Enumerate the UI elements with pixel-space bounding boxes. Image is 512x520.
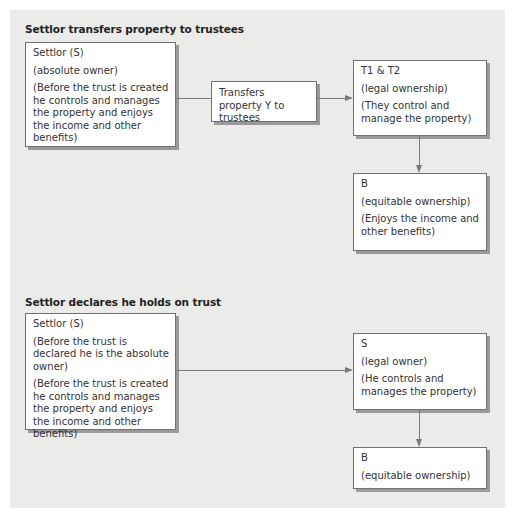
legal-owner-name: S xyxy=(361,338,480,351)
section2-legal-owner-box: S (legal owner) (He controls and manages… xyxy=(353,333,487,410)
trustees-role: (legal ownership) xyxy=(361,83,480,96)
beneficiary-role: (equitable ownership) xyxy=(361,196,480,209)
beneficiary-role: (equitable ownership) xyxy=(361,470,480,483)
connector-settlor-to-legal-owner xyxy=(176,370,345,371)
settlor-name: Settlor (S) xyxy=(33,47,169,60)
arrow-right-icon xyxy=(345,367,353,373)
settlor-name: Settlor (S) xyxy=(33,318,169,331)
section1-title: Settlor transfers property to trustees xyxy=(25,23,244,35)
transfer-label: Transfers property Y to trustees xyxy=(219,87,310,125)
section2-title: Settlor declares he holds on trust xyxy=(25,296,221,308)
section1-transfer-box: Transfers property Y to trustees xyxy=(211,81,317,122)
connector-settlor-to-transfer xyxy=(176,98,211,99)
settlor-note-declared: (Before the trust is declared he is the … xyxy=(33,336,169,374)
arrow-right-icon xyxy=(345,95,353,101)
arrow-down-icon xyxy=(416,439,422,447)
settlor-note-created: (Before the trust is created he controls… xyxy=(33,378,169,441)
trustees-name: T1 & T2 xyxy=(361,65,480,78)
settlor-role: (absolute owner) xyxy=(33,65,169,78)
legal-owner-role: (legal owner) xyxy=(361,356,480,369)
beneficiary-note: (Enjoys the income and other benefits) xyxy=(361,213,480,238)
trustees-note: (They control and manage the property) xyxy=(361,100,480,125)
connector-transfer-to-trustees xyxy=(317,98,345,99)
beneficiary-name: B xyxy=(361,178,480,191)
arrow-down-icon xyxy=(416,165,422,173)
section1-trustees-box: T1 & T2 (legal ownership) (They control … xyxy=(353,60,487,136)
section1-settlor-box: Settlor (S) (absolute owner) (Before the… xyxy=(25,42,176,147)
section2-beneficiary-box: B (equitable ownership) xyxy=(353,447,487,489)
connector-trustees-to-beneficiary xyxy=(419,136,420,165)
connector-legal-owner-to-beneficiary xyxy=(419,410,420,439)
section1-beneficiary-box: B (equitable ownership) (Enjoys the inco… xyxy=(353,173,487,251)
settlor-note: (Before the trust is created he controls… xyxy=(33,82,169,145)
legal-owner-note: (He controls and manages the property) xyxy=(361,373,480,398)
section2-settlor-box: Settlor (S) (Before the trust is declare… xyxy=(25,313,176,430)
beneficiary-name: B xyxy=(361,452,480,465)
